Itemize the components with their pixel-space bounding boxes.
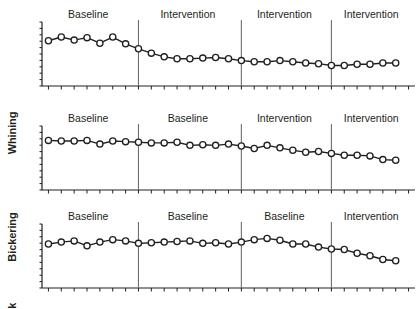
data-point	[251, 237, 257, 243]
data-point	[84, 137, 90, 143]
data-point	[264, 142, 270, 148]
data-point	[225, 241, 231, 247]
panel-talking-back: Talking backBaselineBaselineBaselineInte…	[0, 206, 420, 306]
data-point	[328, 150, 334, 156]
phase-change-lines-whining	[138, 20, 331, 86]
data-point	[213, 54, 219, 60]
data-point	[148, 50, 154, 56]
data-point	[200, 55, 206, 61]
data-point	[367, 253, 373, 259]
data-point	[174, 56, 180, 62]
data-point	[341, 62, 347, 68]
data-point	[367, 61, 373, 67]
data-point	[380, 60, 386, 66]
data-point	[315, 61, 321, 67]
data-point	[277, 57, 283, 63]
data-point	[315, 244, 321, 250]
data-point	[187, 238, 193, 244]
data-point	[148, 240, 154, 246]
data-point	[123, 41, 129, 47]
data-point	[187, 56, 193, 62]
data-point	[264, 235, 270, 241]
data-point	[303, 241, 309, 247]
data-point	[161, 239, 167, 245]
data-point	[393, 157, 399, 163]
data-point	[45, 241, 51, 247]
data-point	[161, 54, 167, 60]
data-point	[45, 137, 51, 143]
data-point	[393, 60, 399, 66]
data-markers-talking-back	[45, 235, 398, 264]
data-point	[380, 157, 386, 163]
data-point	[303, 60, 309, 66]
data-point	[97, 141, 103, 147]
phase-change-lines-bickering	[138, 124, 331, 190]
data-point	[135, 46, 141, 52]
data-point	[251, 59, 257, 65]
data-point	[123, 139, 129, 145]
data-point	[290, 241, 296, 247]
data-point	[290, 147, 296, 153]
data-point	[354, 250, 360, 256]
data-point	[225, 56, 231, 62]
data-point	[187, 142, 193, 148]
data-point	[58, 34, 64, 40]
data-point	[71, 138, 77, 144]
data-markers-bickering	[45, 137, 398, 163]
multiple-baseline-chart: WhiningBaselineInterventionInterventionI…	[0, 0, 420, 309]
data-point	[213, 240, 219, 246]
data-point	[110, 34, 116, 40]
data-point	[71, 238, 77, 244]
data-point	[58, 138, 64, 144]
data-point	[341, 152, 347, 158]
data-point	[238, 239, 244, 245]
data-point	[341, 246, 347, 252]
panel-bickering: BickeringBaselineBaselineInterventionInt…	[0, 108, 420, 208]
data-point	[123, 238, 129, 244]
data-point	[97, 239, 103, 245]
data-point	[238, 57, 244, 63]
data-point	[84, 35, 90, 41]
plot-area-whining	[0, 4, 420, 104]
data-point	[225, 141, 231, 147]
axes-whining	[42, 22, 415, 86]
data-point	[110, 237, 116, 243]
data-point	[97, 40, 103, 46]
data-point	[110, 138, 116, 144]
data-point	[354, 152, 360, 158]
data-point	[84, 243, 90, 249]
data-point	[161, 140, 167, 146]
data-point	[45, 38, 51, 44]
data-point	[315, 148, 321, 154]
data-markers-whining	[45, 34, 398, 69]
data-point	[354, 61, 360, 67]
data-point	[200, 142, 206, 148]
data-point	[290, 59, 296, 65]
data-point	[251, 145, 257, 151]
data-point	[328, 246, 334, 252]
data-point	[264, 59, 270, 65]
plot-area-talking-back	[0, 206, 420, 306]
data-point	[58, 239, 64, 245]
data-point	[135, 139, 141, 145]
data-point	[380, 256, 386, 262]
phase-change-lines-talking-back	[138, 222, 331, 288]
panel-whining: WhiningBaselineInterventionInterventionI…	[0, 4, 420, 104]
data-point	[135, 240, 141, 246]
data-point	[174, 238, 180, 244]
data-point	[277, 145, 283, 151]
data-point	[328, 62, 334, 68]
data-point	[238, 143, 244, 149]
data-point	[174, 139, 180, 145]
data-point	[367, 153, 373, 159]
data-point	[71, 37, 77, 43]
data-point	[200, 240, 206, 246]
data-point	[213, 142, 219, 148]
plot-area-bickering	[0, 108, 420, 208]
data-point	[393, 258, 399, 264]
data-point	[277, 237, 283, 243]
data-point	[303, 149, 309, 155]
data-point	[148, 140, 154, 146]
